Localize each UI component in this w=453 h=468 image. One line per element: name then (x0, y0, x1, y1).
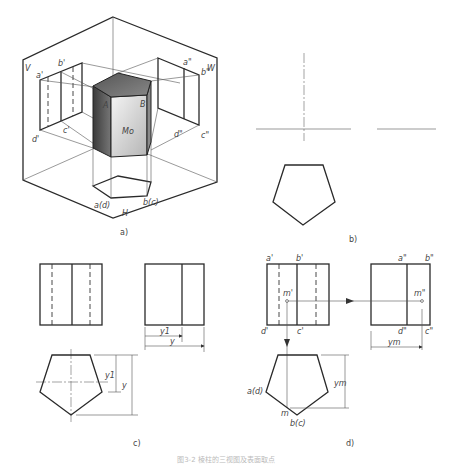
label-a-dprime: a" (398, 254, 407, 263)
front-view (267, 264, 329, 325)
label-b-c: b(c) (290, 419, 306, 428)
plane-label-h: H (122, 209, 128, 218)
label-d-dprime: d" (174, 130, 183, 139)
plane-label-v: V (25, 64, 31, 73)
arrow-right-icon (346, 298, 354, 304)
label-a-dprime: a" (183, 58, 192, 67)
label-m-prime: m' (283, 289, 293, 298)
label-d-dprime: d" (398, 327, 407, 336)
label-c-dprime: c" (425, 327, 433, 336)
panel-d-surface-point: ym ym a' b' c' d' m' a" b" c" d" m" a(d)… (247, 254, 434, 448)
label-point-B: B (140, 100, 146, 109)
label-m-dprime: m" (414, 289, 425, 298)
panel-b-drawing-start: b) (256, 53, 436, 244)
label-point-A: A (102, 101, 108, 110)
point-m-prime (286, 300, 289, 303)
label-c-prime: c' (297, 327, 304, 336)
label-m: m (281, 409, 289, 418)
label-a-d: a(d) (247, 387, 263, 396)
label-b-dprime: b" (201, 68, 210, 77)
dim-ym-side: ym (387, 338, 401, 347)
figure-caption: 图3-2 棱柱的三视图及表面取点 (177, 455, 275, 464)
label-a-d: a(d) (94, 201, 110, 210)
label-a-prime: a' (266, 254, 273, 263)
label-d-prime: d' (261, 327, 268, 336)
label-surface-mo: Mo (122, 127, 134, 136)
point-m-dprime (421, 300, 424, 303)
label-b-c: b(c) (143, 198, 159, 207)
dim-ym-top: ym (333, 379, 347, 388)
label-d-prime: d' (32, 135, 39, 144)
pentagonal-prism (93, 73, 151, 157)
panel-c-three-views: y1 y y1 y c) (36, 264, 204, 448)
top-view-dimensions: y1 y (76, 355, 138, 415)
label-c-dprime: c" (201, 131, 209, 140)
arrow-down-icon (284, 339, 290, 347)
prism-projection-figure: V W H a' b' c' d' a" b" c" d" A B Mo a(d… (0, 0, 453, 468)
dim-y1-top: y1 (104, 371, 115, 380)
top-view-pentagon (273, 165, 335, 225)
label-b-prime: b' (296, 254, 303, 263)
panel-b-label: b) (349, 235, 357, 244)
front-view (40, 264, 102, 325)
label-c-prime: c' (63, 126, 70, 135)
panel-c-label: c) (133, 439, 141, 448)
label-b-dprime: b" (425, 254, 434, 263)
label-b-prime: b' (58, 59, 65, 68)
side-view-dimensions: y1 y (145, 327, 204, 352)
panel-a-isometric: V W H a' b' c' d' a" b" c" d" A B Mo a(d… (23, 17, 217, 237)
dim-y-side: y (169, 337, 175, 346)
top-view-pentagon (266, 355, 328, 415)
label-a-prime: a' (36, 71, 43, 80)
panel-d-label: d) (346, 439, 354, 448)
dim-y1-side: y1 (159, 327, 170, 336)
side-view (145, 264, 204, 325)
dim-y-top: y (121, 381, 127, 390)
panel-a-label: a) (120, 228, 128, 237)
